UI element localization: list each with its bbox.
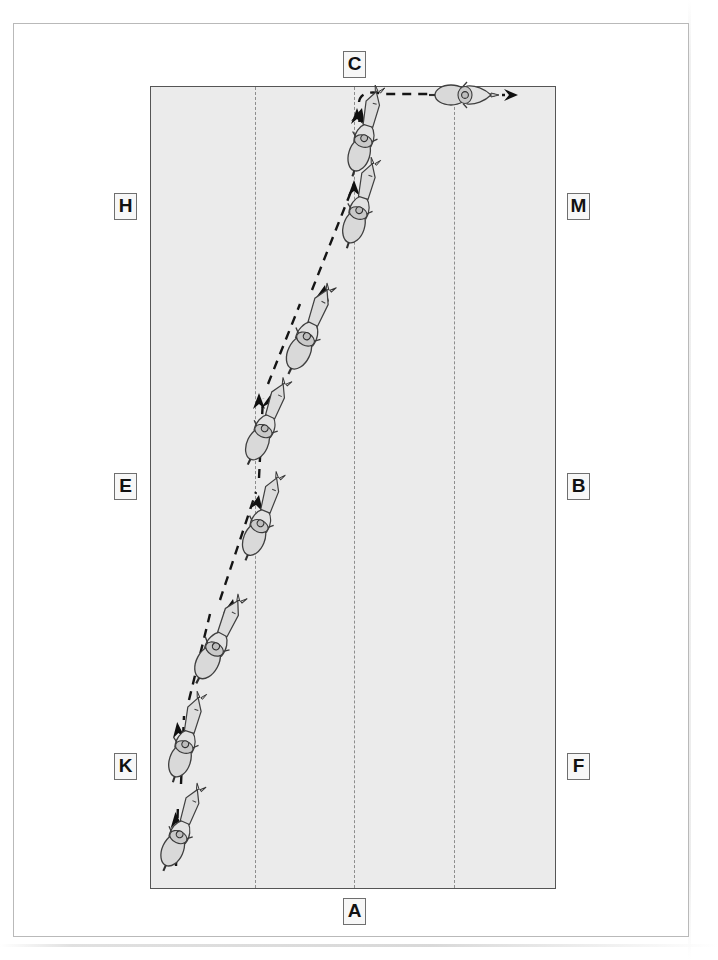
dressage-arena [150, 86, 556, 889]
arena-letter-m: M [567, 193, 590, 220]
page-frame: C H M E B K F A [13, 23, 689, 937]
arena-letter-e: E [114, 473, 137, 500]
page-edge-shadow-bottom [0, 944, 718, 947]
arena-letter-b: B [567, 473, 590, 500]
arena-letter-h: H [114, 193, 137, 220]
arena-letter-k: K [114, 753, 137, 780]
arena-letter-c: C [343, 51, 366, 78]
arena-guide-line-1 [255, 87, 256, 888]
arena-guide-line-2 [354, 87, 355, 888]
arena-letter-a: A [343, 898, 366, 925]
arena-letter-f: F [567, 753, 590, 780]
arena-guide-line-3 [454, 87, 455, 888]
